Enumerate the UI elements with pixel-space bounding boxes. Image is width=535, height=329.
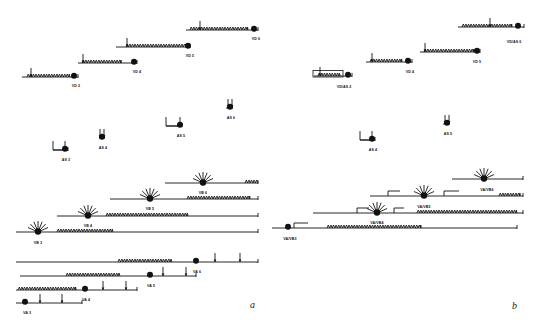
construct-label-vd-as-2: VD/AS 2 xyxy=(337,85,352,89)
fan-center-marker xyxy=(481,175,487,181)
construct-label-va-vb4: VA/VB4 xyxy=(370,221,383,225)
construct-label-va-vb3: VA/VB3 xyxy=(283,237,296,241)
fan-center-marker xyxy=(200,179,206,185)
construct-label-as-5: AS 5 xyxy=(444,132,452,136)
junction-circle-marker xyxy=(185,43,191,49)
construct-label-vd-as-6: VD/AS 6 xyxy=(507,40,522,44)
junction-circle-marker xyxy=(177,122,183,128)
construct-label-vd-6: VD 6 xyxy=(252,37,260,41)
construct-label-va-3: VA 3 xyxy=(23,311,31,315)
construct-label-va-vb6: VA/VB6 xyxy=(480,188,493,192)
junction-circle-marker xyxy=(369,136,375,142)
junction-circle-marker xyxy=(251,26,257,32)
construct-label-vd-2: VD 2 xyxy=(72,84,80,88)
step-bracket xyxy=(394,208,404,213)
construct-label-vb-3: VB 3 xyxy=(34,241,42,245)
construct-label-vb-6: VB 6 xyxy=(199,191,207,195)
junction-circle-marker xyxy=(227,104,233,110)
construct-label-as-6: AS 6 xyxy=(227,116,235,120)
step-bracket xyxy=(444,191,459,196)
fan-center-marker xyxy=(421,192,427,198)
construct-label-as-3: AS 3 xyxy=(62,158,70,162)
construct-label-vd-5: VD 5 xyxy=(473,60,481,64)
junction-circle-marker xyxy=(82,286,88,292)
junction-circle-marker xyxy=(515,23,521,29)
construct-label-vd-4: VD 4 xyxy=(133,70,141,74)
construct-label-as-4: AS 4 xyxy=(99,146,107,150)
figure-canvas xyxy=(0,0,535,329)
junction-circle-marker xyxy=(405,58,411,64)
junction-circle-marker xyxy=(444,120,450,126)
junction-circle-marker xyxy=(285,224,291,230)
panel-letter-a: a xyxy=(250,299,255,310)
construct-label-vd-4: VD 4 xyxy=(406,70,414,74)
figure-container: VD 2VD 4VD 5VD 6AS 3AS 4AS 5AS 6VB 3VB 4… xyxy=(0,0,535,329)
fan-center-marker xyxy=(147,195,153,201)
step-bracket xyxy=(388,191,400,196)
construct-label-va-4: VA 4 xyxy=(82,298,90,302)
fan-center-marker xyxy=(85,212,91,218)
junction-circle-marker xyxy=(147,272,153,278)
construct-label-vb-5: VB 5 xyxy=(146,207,154,211)
construct-label-vd-5: VD 5 xyxy=(186,54,194,58)
construct-label-va-6: VA 6 xyxy=(193,270,201,274)
fan-center-marker xyxy=(374,209,380,215)
panel-letter-b: b xyxy=(512,300,517,311)
construct-label-va-vb5: VA/VB5 xyxy=(417,205,430,209)
fan-center-marker xyxy=(35,228,41,234)
junction-circle-marker xyxy=(345,72,351,78)
repeat-array-sawtooth xyxy=(499,193,520,196)
junction-circle-marker xyxy=(71,73,77,79)
junction-circle-marker xyxy=(193,258,199,264)
junction-circle-marker xyxy=(131,59,137,65)
construct-label-as-4: AS 4 xyxy=(369,148,377,152)
junction-circle-marker xyxy=(22,299,28,305)
construct-label-va-5: VA 5 xyxy=(147,284,155,288)
construct-label-as-5: AS 5 xyxy=(177,134,185,138)
junction-circle-marker xyxy=(474,48,480,54)
junction-circle-marker xyxy=(62,146,68,152)
step-bracket xyxy=(294,223,308,228)
junction-circle-marker xyxy=(99,134,105,140)
construct-label-vb-4: VB 4 xyxy=(84,224,92,228)
